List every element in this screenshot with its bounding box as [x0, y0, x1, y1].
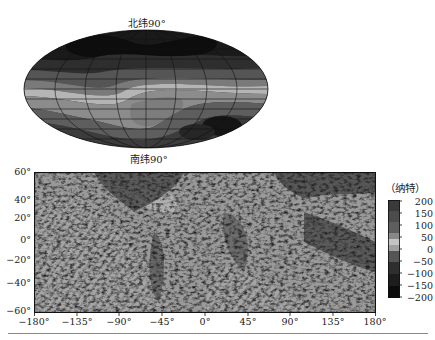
- y-tick: −60°: [1, 305, 31, 316]
- colorbar-tick: −50: [403, 256, 433, 268]
- y-tick: 20°: [1, 212, 31, 223]
- colorbar-tick: 50: [403, 232, 433, 244]
- y-tick: −40°: [1, 277, 31, 288]
- y-tick: 40°: [1, 194, 31, 205]
- x-tick: 135°: [315, 316, 351, 327]
- colorbar-tick: −100: [403, 268, 433, 280]
- y-tick: −20°: [1, 254, 31, 265]
- x-tick: −45°: [144, 316, 180, 327]
- colorbar-tick: 150: [403, 208, 433, 220]
- x-tick: 45°: [230, 316, 266, 327]
- divider: [8, 333, 428, 334]
- colorbar-tick: 200: [403, 196, 433, 208]
- south-pole-label: 南纬90°: [130, 151, 168, 166]
- x-tick: 0°: [187, 316, 223, 327]
- colorbar: [388, 200, 402, 298]
- colorbar-tick: 0: [403, 244, 433, 256]
- mollweide-map: [22, 28, 270, 150]
- equirectangular-map: [34, 172, 376, 313]
- x-tick: −90°: [101, 316, 137, 327]
- colorbar-tick: −150: [403, 280, 433, 292]
- x-tick: 180°: [357, 316, 393, 327]
- colorbar-tick: 100: [403, 220, 433, 232]
- colorbar-ticks: 200 150 100 50 0 −50 −100 −150 −200: [403, 196, 433, 304]
- x-tick: −135°: [59, 316, 95, 327]
- y-tick: 60°: [1, 166, 31, 177]
- x-tick: 90°: [272, 316, 308, 327]
- y-tick: 0°: [1, 234, 31, 245]
- x-tick: −180°: [16, 316, 52, 327]
- colorbar-unit-label: （纳特）: [385, 180, 425, 195]
- colorbar-tick: −200: [403, 292, 433, 304]
